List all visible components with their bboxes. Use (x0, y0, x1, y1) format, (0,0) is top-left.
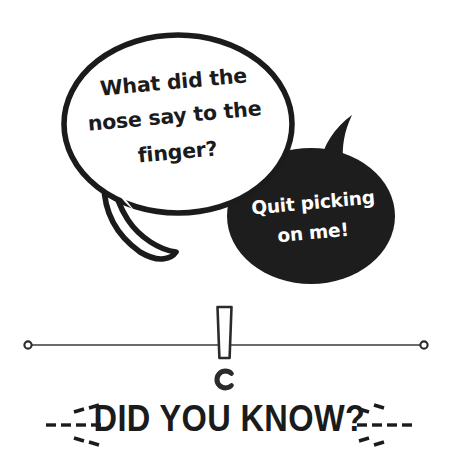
did-you-know-poster: What did the nose say to the finger? Qui… (0, 0, 458, 453)
exclamation-mark-icon (217, 307, 232, 388)
did-you-know-headline: DID YOU KNOW? (93, 398, 365, 440)
footer-headline-row: DID YOU KNOW? (0, 398, 458, 440)
